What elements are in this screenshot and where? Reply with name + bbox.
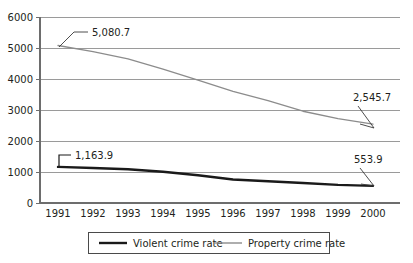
annotation-violent-start: 1,163.9 — [75, 150, 113, 161]
annotation-violent-end: 553.9 — [354, 154, 383, 165]
x-label-1995: 1995 — [185, 208, 210, 219]
x-label-1999: 1999 — [325, 208, 350, 219]
leader-property-end — [358, 106, 374, 128]
crime-rate-line-chart: 6000 5000 4000 3000 2000 1000 0 1991 199… — [0, 0, 413, 263]
leader-violent-start — [59, 155, 71, 167]
x-label-1994: 1994 — [150, 208, 175, 219]
chart-legend: Violent crime rate Property crime rate — [89, 233, 346, 254]
x-label-2000: 2000 — [360, 208, 385, 219]
gridlines — [40, 17, 400, 172]
x-label-1997: 1997 — [255, 208, 280, 219]
y-label-0: 0 — [27, 198, 33, 209]
x-label-1993: 1993 — [115, 208, 140, 219]
y-label-3000: 3000 — [8, 105, 33, 116]
chart-canvas: 6000 5000 4000 3000 2000 1000 0 1991 199… — [0, 0, 413, 263]
legend-label-violent-crime-rate: Violent crime rate — [133, 238, 223, 249]
violent-crime-rate-line — [58, 167, 373, 186]
y-axis-labels: 6000 5000 4000 3000 2000 1000 0 — [8, 12, 33, 209]
y-label-2000: 2000 — [8, 136, 33, 147]
leader-violent-end — [360, 168, 374, 186]
y-label-4000: 4000 — [8, 74, 33, 85]
x-label-1992: 1992 — [80, 208, 105, 219]
annotation-property-start: 5,080.7 — [92, 27, 130, 38]
x-axis-labels: 1991 1992 1993 1994 1995 1996 1997 1998 … — [45, 208, 385, 219]
x-label-1998: 1998 — [290, 208, 315, 219]
y-label-1000: 1000 — [8, 167, 33, 178]
series-lines — [58, 46, 373, 186]
leader-property-start — [59, 32, 88, 47]
legend-label-property-crime-rate: Property crime rate — [248, 238, 345, 249]
y-label-5000: 5000 — [8, 43, 33, 54]
annotation-property-end: 2,545.7 — [353, 92, 391, 103]
x-label-1991: 1991 — [45, 208, 70, 219]
x-label-1996: 1996 — [220, 208, 245, 219]
property-crime-rate-line — [58, 46, 373, 125]
data-annotations: 5,080.7 2,545.7 1,163.9 553.9 — [59, 27, 391, 186]
y-label-6000: 6000 — [8, 12, 33, 23]
